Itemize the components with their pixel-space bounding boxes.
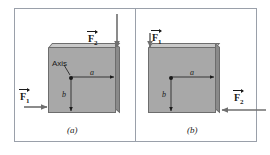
dimension-b-vertical-label: b bbox=[162, 91, 166, 99]
force-f2-label-a: F2 bbox=[88, 34, 98, 47]
block-a-body bbox=[48, 47, 116, 113]
panel-a-caption: (a) bbox=[67, 126, 78, 135]
force-f1-vector-a: F1 bbox=[20, 92, 30, 105]
block-a-right-edge bbox=[115, 43, 120, 113]
force-f1-label-b: F1 bbox=[152, 33, 162, 46]
force-f2-vector-b: F2 bbox=[234, 93, 244, 106]
dimension-b-horizontal-label: a bbox=[190, 69, 194, 77]
force-f1-vector-b: F1 bbox=[152, 33, 162, 46]
force-f2-vector-a: F2 bbox=[88, 34, 98, 47]
block-b-body bbox=[148, 47, 216, 113]
panel-a: Axis a b F1 F2 (a) bbox=[14, 8, 135, 142]
panel-b-caption: (b) bbox=[187, 126, 198, 135]
block-a-top-edge bbox=[48, 43, 120, 48]
dimension-a-horizontal-label: a bbox=[90, 69, 94, 77]
axis-point-b bbox=[169, 76, 173, 80]
dimension-a-vertical-label: b bbox=[62, 91, 66, 99]
force-f2-label-b: F2 bbox=[234, 93, 244, 106]
axis-label-a: Axis bbox=[52, 60, 67, 68]
axis-point-a bbox=[69, 76, 73, 80]
force-f1-label-a: F1 bbox=[20, 92, 30, 105]
physics-figure: Axis a b F1 F2 (a) a b F1 F2 (b) bbox=[0, 0, 270, 155]
panel-b: a b F1 F2 (b) bbox=[136, 8, 257, 142]
block-b-right-edge bbox=[215, 43, 220, 113]
